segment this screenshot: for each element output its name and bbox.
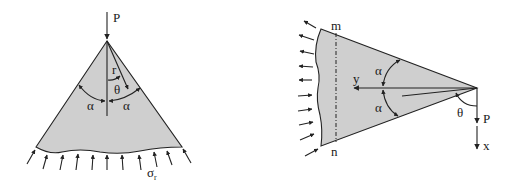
radius-label: r bbox=[112, 62, 117, 77]
diagram-canvas: P r θ α α σr bbox=[0, 0, 514, 187]
y-axis-label: y bbox=[353, 71, 360, 86]
theta-label: θ bbox=[457, 105, 463, 120]
stress-label: σr bbox=[147, 165, 157, 182]
alpha-label-left: α bbox=[87, 98, 94, 113]
figure-wedge-vertical: P r θ α α σr bbox=[27, 10, 191, 182]
load-label: P bbox=[113, 10, 120, 25]
figure-wedge-horizontal: m n y α α θ P x bbox=[298, 18, 490, 159]
x-axis-label: x bbox=[483, 138, 490, 153]
wedge-body bbox=[36, 41, 182, 153]
alpha-label-top: α bbox=[375, 63, 382, 78]
alpha-label-right: α bbox=[123, 98, 130, 113]
alpha-label-bottom: α bbox=[375, 100, 382, 115]
point-n-label: n bbox=[331, 144, 338, 159]
load-label: P bbox=[483, 111, 490, 126]
boundary-stress-arrows-icon bbox=[298, 21, 318, 156]
theta-label: θ bbox=[114, 82, 120, 97]
point-m-label: m bbox=[331, 18, 341, 33]
